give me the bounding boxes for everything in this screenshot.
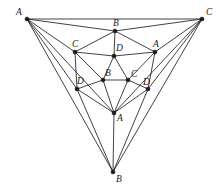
graph-edge	[27, 19, 113, 172]
graph-edge	[114, 31, 115, 56]
graph-edge	[103, 56, 114, 80]
nested-triangle-graph-svg	[0, 0, 223, 192]
graph-edge	[27, 19, 115, 31]
graph-edge	[103, 80, 114, 113]
graph-vertex-mid-D	[112, 54, 116, 58]
graph-edge	[27, 19, 77, 89]
graph-edge	[77, 89, 113, 172]
graph-vertex-core-Dl	[75, 87, 79, 91]
graph-vertex-mid-A	[153, 50, 157, 54]
graph-edge	[113, 113, 114, 172]
graph-edge	[115, 31, 155, 52]
graph-edge	[114, 19, 202, 113]
graph-edge	[128, 52, 155, 80]
graph-edge	[155, 19, 202, 52]
graph-edge	[27, 19, 75, 52]
graph-edge	[75, 52, 114, 56]
graph-vertex-core-Dr	[146, 87, 150, 91]
graph-edge	[75, 31, 115, 52]
figure-canvas: ACBBCADBCDDA	[0, 0, 223, 192]
graph-vertex-core-A	[112, 111, 116, 115]
graph-vertex-outer-C	[200, 17, 204, 21]
graph-edge	[75, 52, 77, 89]
graph-vertex-mid-C	[73, 50, 77, 54]
graph-vertex-outer-A	[25, 17, 29, 21]
graph-vertex-outer-B	[111, 170, 115, 174]
edge-layer	[27, 19, 202, 172]
graph-edge	[113, 19, 202, 172]
graph-vertex-core-C	[126, 78, 130, 82]
graph-edge	[114, 52, 155, 56]
graph-edge	[27, 19, 114, 113]
graph-edge	[115, 19, 202, 31]
graph-edge	[114, 56, 128, 80]
graph-vertex-mid-B	[113, 29, 117, 33]
graph-vertex-core-B	[101, 78, 105, 82]
